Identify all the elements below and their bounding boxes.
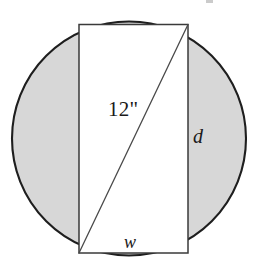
scan-artifact — [206, 0, 213, 3]
geometry-figure: 12" d w — [0, 0, 262, 271]
diagonal-length-label: 12" — [108, 99, 138, 120]
width-label: w — [124, 233, 136, 251]
height-label: d — [193, 126, 203, 146]
figure-canvas — [0, 0, 262, 271]
